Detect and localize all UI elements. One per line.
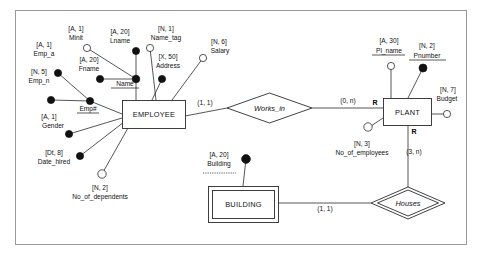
attr-name_tag-type: [N, 1]	[158, 25, 174, 33]
entity-plant-label: PLANT	[395, 108, 420, 117]
cardinality-building-houses: (1, 1)	[317, 205, 332, 213]
role-marker-plant-works-in: R	[372, 99, 377, 106]
attr-salary-type: [N, 6]	[211, 38, 227, 46]
attr-fname-type: [A, 20]	[79, 56, 98, 64]
attr-lname-label: Lname	[110, 37, 130, 44]
edge-pnumber-plant	[408, 68, 423, 98]
edge-date_hired-employee	[80, 122, 124, 156]
attr-date_hired-marker[interactable]	[76, 152, 83, 159]
entity-employee[interactable]: EMPLOYEE	[123, 101, 186, 129]
entity-building[interactable]: BUILDING	[209, 187, 279, 223]
attr-no_of_employees-type: [N, 3]	[354, 140, 370, 148]
relationship-houses-label: Houses	[395, 199, 420, 208]
attr-fname-marker[interactable]	[96, 75, 103, 82]
attr-lname-type: [A, 20]	[110, 28, 129, 36]
attr-emp_a-type: [A, 1]	[36, 41, 52, 49]
attr-pl_name-label: Pl_name	[376, 47, 402, 55]
attr-gender-type: [A, 1]	[41, 113, 57, 121]
attr-fname-label: Fname	[79, 65, 100, 72]
attr-minit-marker[interactable]	[83, 44, 90, 51]
attr-address-label: Address	[156, 62, 181, 69]
attr-budget-label: Budget	[437, 95, 458, 103]
attr-building_attr-marker[interactable]	[242, 155, 251, 164]
er-diagram-canvas: EMPLOYEE PLANT BUILDING Works_in Houses …	[0, 0, 482, 255]
edge-name_tag-employee	[150, 48, 156, 100]
attr-minit-type: [A, 1]	[68, 25, 84, 33]
attr-pl_name-type: [A, 30]	[379, 37, 398, 45]
edge-no_of_dependents-employee	[102, 128, 128, 174]
attr-name_tag-label: Name_tag	[151, 34, 182, 42]
attr-emp_n-type: [N, 5]	[31, 68, 47, 76]
attr-emp_num-marker[interactable]	[86, 97, 93, 104]
attr-building_attr-type: [A, 20]	[209, 151, 228, 159]
attr-emp_n-label: Emp_n	[29, 77, 50, 85]
attr-pnumber-type: [N, 2]	[419, 42, 435, 50]
relationship-works_in-label: Works_in	[254, 104, 285, 113]
attr-date_hired-label: Date_hired	[38, 158, 71, 166]
attr-salary-label: Salary	[211, 47, 230, 55]
attr-pnumber-marker[interactable]	[419, 64, 427, 72]
attr-budget-type: [N, 7]	[440, 86, 456, 94]
attr-no_of_employees-label: No_of_employees	[335, 149, 389, 157]
edge-no_of_employees-plant	[371, 118, 383, 126]
attr-date_hired-type: [Dt, 8]	[45, 149, 63, 157]
entity-plant[interactable]: PLANT	[384, 99, 432, 126]
relationship-houses[interactable]: Houses	[371, 187, 445, 219]
attr-address-marker[interactable]	[158, 75, 165, 82]
cardinality-emp-works-in: (1, 1)	[197, 99, 212, 107]
attr-pnumber-label: Pnumber	[414, 52, 442, 59]
attr-emp_a-label: Emp_a	[34, 50, 55, 58]
attr-no_of_employees-marker[interactable]	[364, 123, 372, 131]
relationship-works_in[interactable]: Works_in	[227, 93, 312, 123]
attr-no_of_dependents-marker[interactable]	[98, 170, 106, 178]
entity-employee-label: EMPLOYEE	[133, 110, 175, 119]
edge-emp_n-emp_num	[51, 100, 90, 101]
attr-gender-label: Gender	[42, 122, 65, 129]
attr-gender-marker[interactable]	[65, 130, 72, 137]
attr-name_tag-marker[interactable]	[146, 44, 153, 51]
edge-emp_a-emp_num	[58, 73, 90, 101]
attr-minit-label: Minit	[69, 34, 83, 41]
edge-minit-name	[87, 48, 136, 79]
attr-address-type: [X, 50]	[158, 53, 177, 61]
attr-building_attr-label: Building	[207, 160, 231, 168]
attr-name-label: Name	[116, 80, 134, 87]
edge-gender-employee	[69, 118, 122, 134]
attr-lname-marker[interactable]	[132, 47, 139, 54]
attr-budget-marker[interactable]	[443, 110, 450, 117]
attr-no_of_dependents-label: No_of_dependents	[72, 193, 128, 201]
attr-salary-marker[interactable]	[199, 54, 206, 61]
er-diagram-svg: EMPLOYEE PLANT BUILDING Works_in Houses …	[0, 0, 482, 255]
attr-emp_n-marker[interactable]	[47, 96, 54, 103]
role-marker-plant-houses: R	[411, 128, 416, 135]
cardinality-plant-houses: (3, n)	[406, 148, 421, 156]
entity-building-label: BUILDING	[225, 200, 262, 209]
attr-emp_a-marker[interactable]	[54, 69, 61, 76]
attr-pl_name-marker[interactable]	[387, 62, 394, 69]
cardinality-plant-works-in: (0, n)	[340, 97, 355, 105]
attr-emp_num-label: Emp#	[79, 105, 97, 113]
attr-no_of_dependents-type: [N, 2]	[92, 184, 108, 192]
edge-employee-works_in	[185, 108, 227, 116]
